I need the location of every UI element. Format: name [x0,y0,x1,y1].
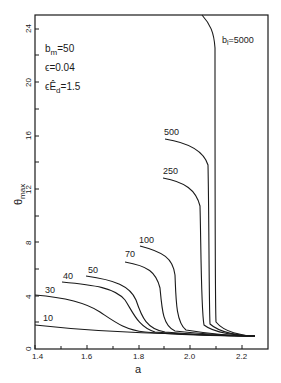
chart: 1.4 1.6 1.8 2.0 2.2 a 0 4 8 12 16 20 24 … [0,0,281,383]
svg-text:θmax: θmax [12,184,27,205]
svg-text:8: 8 [24,240,33,245]
svg-text:50: 50 [88,265,98,275]
svg-text:1.8: 1.8 [133,352,145,361]
curve-500 [165,139,255,336]
svg-text:0: 0 [24,346,33,351]
svg-text:24: 24 [24,24,33,33]
x-axis-title: a [135,363,142,375]
svg-text:20: 20 [24,78,33,87]
svg-text:2.0: 2.0 [184,352,196,361]
param-eps: ϵ=0.04 [45,62,75,73]
svg-text:1.6: 1.6 [81,352,93,361]
param-bm: bm=50 [45,43,75,57]
curve-50 [86,276,255,336]
svg-text:40: 40 [63,271,73,281]
curve-5000 [202,15,255,336]
y-axis-title: θmax [12,184,27,205]
svg-text:100: 100 [139,235,154,245]
svg-text:500: 500 [164,127,179,137]
x-axis-tick-labels: 1.4 1.6 1.8 2.0 2.2 [32,352,248,361]
curve-labels: 10 30 40 50 70 100 250 500 bl=5000 [43,35,254,323]
svg-text:16: 16 [24,131,33,140]
svg-text:2.2: 2.2 [236,352,248,361]
svg-text:10: 10 [43,313,53,323]
svg-text:250: 250 [163,166,178,176]
svg-text:30: 30 [45,285,55,295]
curve-70 [125,262,255,336]
svg-text:bl=5000: bl=5000 [222,35,254,46]
svg-text:1.4: 1.4 [32,352,44,361]
curve-30 [35,295,255,336]
curve-100 [140,246,255,336]
curve-40 [62,282,255,336]
param-eped: ϵÊd=1.5 [45,80,81,95]
svg-text:70: 70 [125,249,135,259]
svg-text:4: 4 [24,294,33,299]
